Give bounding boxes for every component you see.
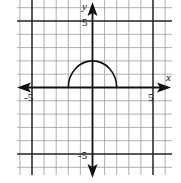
coordinate-plane: x y -5 5 5 -5 [0, 0, 181, 183]
x-tick-label-neg5: -5 [24, 91, 34, 103]
y-axis-label: y [81, 0, 87, 12]
y-tick-label-pos5: 5 [82, 16, 88, 28]
x-axis-label: x [165, 71, 171, 83]
x-tick-label-pos5: 5 [148, 91, 154, 103]
y-tick-label-neg5: -5 [78, 149, 88, 161]
